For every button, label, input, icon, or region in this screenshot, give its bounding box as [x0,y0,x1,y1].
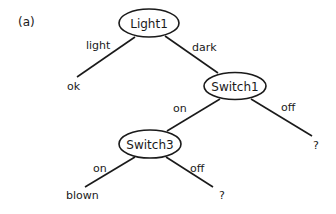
panel-label: (a) [18,16,35,28]
node-switch3-label: Switch3 [126,139,173,151]
leaf-blown: blown [66,190,99,201]
edge-label-switch3-on: on [93,163,107,174]
edge-label-dark: dark [192,42,217,53]
node-light1-label: Light1 [130,18,168,30]
edge-label-light: light [86,40,110,51]
leaf-switch3-off-unknown: ? [219,190,225,201]
leaf-ok: ok [67,81,80,92]
edge-label-switch1-off: off [281,102,295,113]
edge-label-switch3-off: off [190,163,204,174]
node-switch1-label: Switch1 [211,81,258,93]
edge-label-switch1-on: on [173,103,187,114]
leaf-switch1-off-unknown: ? [313,140,319,151]
